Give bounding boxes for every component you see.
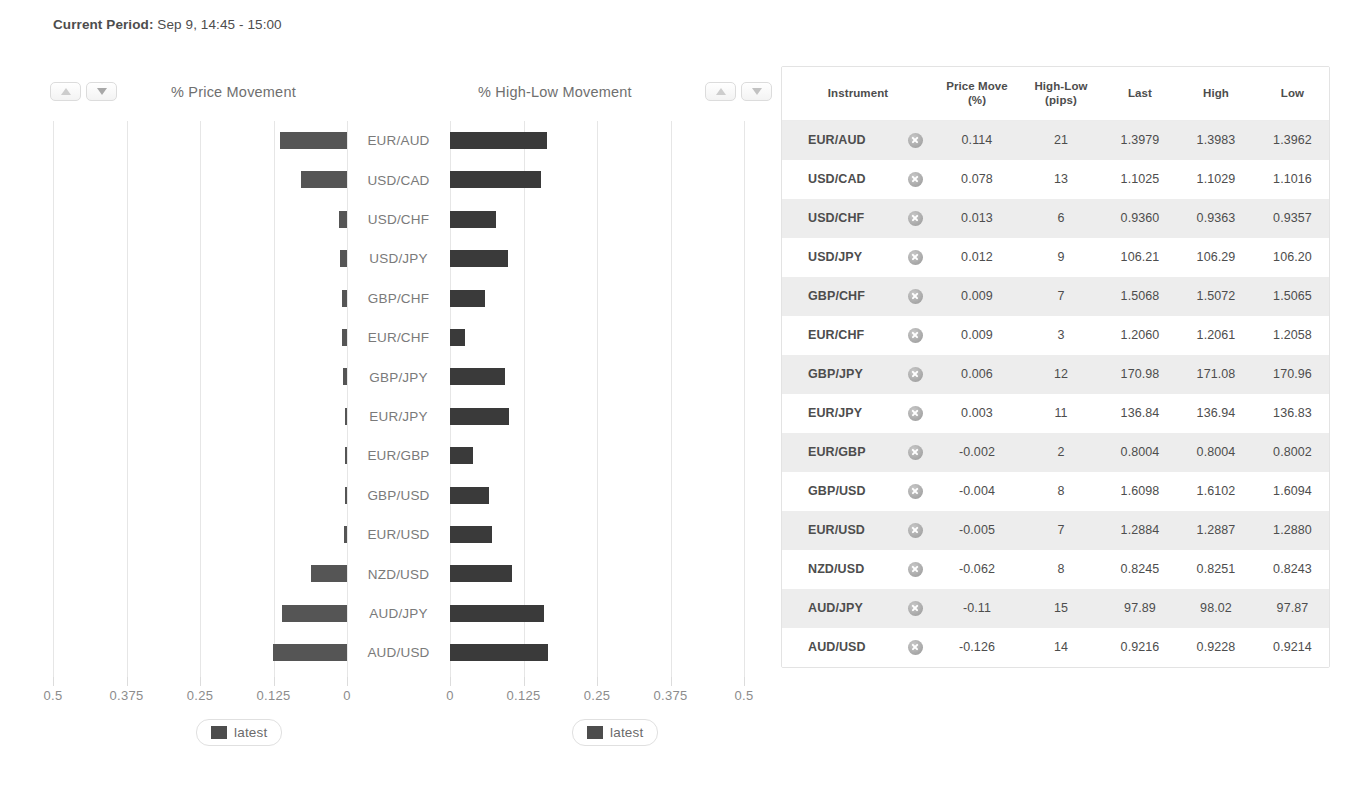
bar-usd-chf[interactable] bbox=[450, 211, 496, 228]
cell-price-move: 0.078 bbox=[934, 160, 1020, 199]
sort-descending-button-price[interactable] bbox=[86, 82, 117, 101]
circle-x-icon[interactable] bbox=[908, 523, 923, 538]
bar-aud-jpy[interactable] bbox=[282, 605, 347, 622]
axis-tick-label: 0.375 bbox=[653, 688, 687, 703]
table-row[interactable]: GBP/JPY0.00612170.98171.08170.96 bbox=[782, 355, 1330, 394]
cell-price-move: -0.002 bbox=[934, 433, 1020, 472]
bar-gbp-chf[interactable] bbox=[450, 290, 485, 307]
sort-descending-button-highlow[interactable] bbox=[741, 82, 772, 101]
cell-high: 136.94 bbox=[1178, 394, 1254, 433]
bar-eur-jpy[interactable] bbox=[450, 408, 509, 425]
cell-last: 136.84 bbox=[1102, 394, 1178, 433]
bar-row bbox=[53, 121, 347, 160]
circle-x-icon[interactable] bbox=[908, 367, 923, 382]
table-row[interactable]: USD/JPY0.0129106.21106.29106.20 bbox=[782, 238, 1330, 277]
bar-aud-jpy[interactable] bbox=[450, 605, 544, 622]
cell-high-low: 12 bbox=[1020, 355, 1102, 394]
circle-x-icon[interactable] bbox=[908, 601, 923, 616]
circle-x-icon[interactable] bbox=[908, 445, 923, 460]
table-row[interactable]: AUD/JPY-0.111597.8998.0297.87 bbox=[782, 589, 1330, 628]
circle-x-icon[interactable] bbox=[908, 289, 923, 304]
cell-high-low: 7 bbox=[1020, 277, 1102, 316]
circle-x-icon[interactable] bbox=[908, 406, 923, 421]
column-header-price-move-line1: Price Move bbox=[946, 80, 1008, 92]
bar-usd-chf[interactable] bbox=[339, 211, 347, 228]
cell-last: 106.21 bbox=[1102, 238, 1178, 277]
cell-high: 1.2887 bbox=[1178, 511, 1254, 550]
cell-last: 1.5068 bbox=[1102, 277, 1178, 316]
bar-nzd-usd[interactable] bbox=[311, 565, 347, 582]
instruments-table: Instrument Price Move (%) High-Low (pips… bbox=[782, 67, 1330, 667]
cell-high: 171.08 bbox=[1178, 355, 1254, 394]
column-header-instrument[interactable]: Instrument bbox=[782, 67, 934, 120]
bar-eur-aud[interactable] bbox=[450, 132, 547, 149]
cell-low: 1.3962 bbox=[1254, 120, 1330, 160]
axis-tick-label: 0.25 bbox=[187, 688, 214, 703]
cell-price-move: -0.062 bbox=[934, 550, 1020, 589]
cell-low: 1.5065 bbox=[1254, 277, 1330, 316]
bar-eur-usd[interactable] bbox=[450, 526, 492, 543]
table-row[interactable]: GBP/CHF0.00971.50681.50721.5065 bbox=[782, 277, 1330, 316]
cell-price-move: 0.012 bbox=[934, 238, 1020, 277]
category-label: AUD/USD bbox=[347, 633, 450, 672]
category-label: EUR/USD bbox=[347, 515, 450, 554]
cell-price-move: -0.11 bbox=[934, 589, 1020, 628]
axis-tick-label: 0.125 bbox=[506, 688, 540, 703]
circle-x-icon[interactable] bbox=[908, 211, 923, 226]
table-row[interactable]: EUR/USD-0.00571.28841.28871.2880 bbox=[782, 511, 1330, 550]
bar-aud-usd[interactable] bbox=[450, 644, 548, 661]
cell-high: 1.3983 bbox=[1178, 120, 1254, 160]
sort-ascending-button-price[interactable] bbox=[50, 82, 81, 101]
bar-row bbox=[53, 318, 347, 357]
table-row[interactable]: USD/CHF0.01360.93600.93630.9357 bbox=[782, 199, 1330, 238]
table-row[interactable]: AUD/USD-0.126140.92160.92280.9214 bbox=[782, 628, 1330, 667]
axis-tick-mark bbox=[200, 677, 201, 686]
sort-ascending-button-highlow[interactable] bbox=[705, 82, 736, 101]
sort-controls-high-low[interactable] bbox=[705, 82, 772, 101]
axis-tick-label: 0 bbox=[343, 688, 351, 703]
sort-controls-price-movement[interactable] bbox=[50, 82, 117, 101]
table-row[interactable]: USD/CAD0.078131.10251.10291.1016 bbox=[782, 160, 1330, 199]
column-header-high-low[interactable]: High-Low (pips) bbox=[1020, 67, 1102, 120]
circle-x-icon[interactable] bbox=[908, 133, 923, 148]
table-row[interactable]: GBP/USD-0.00481.60981.61021.6094 bbox=[782, 472, 1330, 511]
bar-eur-chf[interactable] bbox=[450, 329, 465, 346]
circle-x-icon[interactable] bbox=[908, 250, 923, 265]
cell-low: 0.9214 bbox=[1254, 628, 1330, 667]
legend-high-low-movement[interactable]: latest bbox=[572, 719, 658, 746]
bar-nzd-usd[interactable] bbox=[450, 565, 512, 582]
axis-tick-label: 0.5 bbox=[44, 688, 63, 703]
table-row[interactable]: EUR/JPY0.00311136.84136.94136.83 bbox=[782, 394, 1330, 433]
circle-x-icon[interactable] bbox=[908, 640, 923, 655]
cell-low: 106.20 bbox=[1254, 238, 1330, 277]
bar-gbp-usd[interactable] bbox=[450, 487, 489, 504]
cell-low: 1.2880 bbox=[1254, 511, 1330, 550]
bar-aud-usd[interactable] bbox=[273, 644, 347, 661]
bar-eur-aud[interactable] bbox=[280, 132, 347, 149]
circle-x-icon[interactable] bbox=[908, 328, 923, 343]
bar-usd-jpy[interactable] bbox=[450, 250, 508, 267]
circle-x-icon[interactable] bbox=[908, 562, 923, 577]
table-row[interactable]: NZD/USD-0.06280.82450.82510.8243 bbox=[782, 550, 1330, 589]
bar-row bbox=[450, 200, 744, 239]
bar-row bbox=[53, 279, 347, 318]
circle-x-icon[interactable] bbox=[908, 484, 923, 499]
table-row[interactable]: EUR/GBP-0.00220.80040.80040.8002 bbox=[782, 433, 1330, 472]
column-header-last[interactable]: Last bbox=[1102, 67, 1178, 120]
table-head: Instrument Price Move (%) High-Low (pips… bbox=[782, 67, 1330, 120]
column-header-price-move[interactable]: Price Move (%) bbox=[934, 67, 1020, 120]
bar-usd-jpy[interactable] bbox=[340, 250, 347, 267]
column-header-low[interactable]: Low bbox=[1254, 67, 1330, 120]
category-label: AUD/JPY bbox=[347, 594, 450, 633]
plot-area-price-movement bbox=[53, 121, 347, 677]
circle-x-icon[interactable] bbox=[908, 172, 923, 187]
bar-eur-gbp[interactable] bbox=[450, 447, 473, 464]
legend-price-movement[interactable]: latest bbox=[196, 719, 282, 746]
table-row[interactable]: EUR/AUD0.114211.39791.39831.3962 bbox=[782, 120, 1330, 160]
table-row[interactable]: EUR/CHF0.00931.20601.20611.2058 bbox=[782, 316, 1330, 355]
cell-last: 1.3979 bbox=[1102, 120, 1178, 160]
bar-gbp-jpy[interactable] bbox=[450, 368, 505, 385]
bar-usd-cad[interactable] bbox=[301, 171, 347, 188]
column-header-high[interactable]: High bbox=[1178, 67, 1254, 120]
bar-usd-cad[interactable] bbox=[450, 171, 541, 188]
